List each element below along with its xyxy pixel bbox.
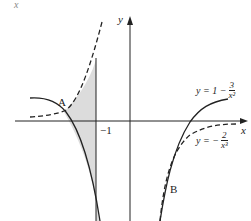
solid-curve-equation: y = 1 − 3 x² [196, 81, 235, 100]
x-axis-label: x [241, 125, 246, 136]
graph-svg [0, 0, 251, 221]
dashed-curve-fraction: 2 x³ [221, 131, 228, 150]
dashed-curve-denominator: x³ [221, 141, 228, 150]
solid-curve-right [160, 99, 228, 221]
point-label-a: A [58, 97, 66, 108]
point-label-b: B [170, 184, 177, 195]
solid-curve-fraction: 3 x² [228, 81, 235, 100]
y-axis-label: y [118, 14, 123, 25]
dashed-curve-equation-lhs: y = − [196, 136, 219, 146]
y-axis-arrow-icon [127, 16, 133, 25]
graph-figure: x y x −1 A B y = 1 − 3 x² y = − 2 x³ [0, 0, 251, 221]
corner-x-label: x [14, 0, 18, 10]
solid-curve-equation-lhs: y = 1 − [196, 86, 226, 96]
dashed-curve-equation: y = − 2 x³ [196, 131, 228, 150]
tick-label-minus-one: −1 [100, 125, 112, 136]
solid-curve-denominator: x² [228, 91, 235, 100]
